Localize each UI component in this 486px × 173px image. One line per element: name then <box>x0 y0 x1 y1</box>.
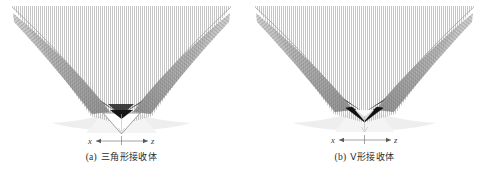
axis-x-label-b: x <box>330 135 335 145</box>
panel-a-caption: (a)三角形接收体 <box>0 150 243 163</box>
panel-b-tag: (b) <box>335 152 347 162</box>
axis-annotation-b <box>339 135 391 144</box>
incident-ray-bundle-b <box>253 4 477 128</box>
panel-a-caption-text: 三角形接收体 <box>101 152 157 162</box>
figure-panel-a: z --> x z (a)三角形接收体 <box>0 0 243 173</box>
ray-diagram-a-svg: z --> x z <box>0 0 243 148</box>
panel-b-caption: (b)V形接收体 <box>243 150 486 163</box>
axis-annotation-a <box>96 136 148 145</box>
panel-a-tag: (a) <box>86 152 97 162</box>
axis-z-label-a: z <box>150 136 155 146</box>
ray-trace-plot-b: x z <box>243 0 486 148</box>
figure-panel-b: x z (b)V形接收体 <box>243 0 486 173</box>
ray-trace-plot-a: z --> x z <box>0 0 243 148</box>
figure-sheet: z --> x z (a)三角形接收体 <box>0 0 486 173</box>
panel-b-caption-text: V形接收体 <box>350 152 394 162</box>
ray-diagram-b-svg: x z <box>243 0 486 148</box>
axis-x-label-a: x <box>87 136 92 146</box>
axis-z-label-b: z <box>393 135 398 145</box>
